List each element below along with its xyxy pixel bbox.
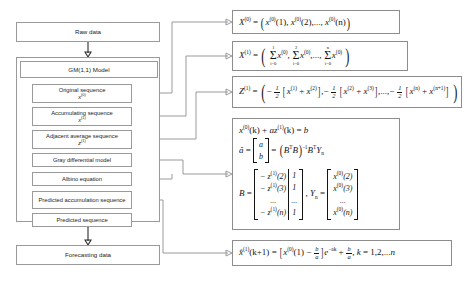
node-accumulating-sequence[interactable]: Accumulating sequence x(1) <box>32 107 132 126</box>
gm-model-title: GM(1,1) Model <box>20 61 158 78</box>
matrix-B: − z(1)(2)− z(1)(3)...− z(1)(n) 11...1 <box>254 169 303 219</box>
formula-original-sequence-expression: X(0) = (x(0)(1), x(0)(2),..., x(0)(n)) <box>239 16 351 28</box>
formula-box-adjacent-average-sequence[interactable]: Z(1) = (− 12 [x(1) + x(2)],− 12 [x(2) + … <box>232 76 462 108</box>
node-predicted-sequence[interactable]: Predicted sequence <box>32 213 132 227</box>
formula-time-response-expression: x̂(1)(k+1) = [x(0)(1) − ba]e−ak + ba, k … <box>239 246 395 260</box>
node-accumulating-sequence-symbol: x(1) <box>78 116 86 123</box>
node-adjacent-average-sequence[interactable]: Adjacent average sequence z(1) <box>32 130 132 149</box>
formula-accumulating-sequence-expression: X(1) = ( 1Σi=0x(0), 2Σi=0x(0),..., nΣi=0… <box>239 46 351 66</box>
node-original-sequence-symbol: x(0) <box>78 93 86 100</box>
formula-gray-differential-equation: x(0)(k) + az(1)(k) = b <box>239 124 358 135</box>
flowchart-canvas: Raw data GM(1,1) Model Original sequence… <box>0 0 464 285</box>
matrix-Yn: x(0)(2)x(0)(3)...x(0)(n) <box>327 169 358 219</box>
formula-parameter-estimate: â = ab = (BTB)-1BTYn <box>239 138 358 163</box>
node-albino-equation-label: Albino equation <box>62 176 102 183</box>
node-gray-differential-model-label: Gray differential model <box>53 157 111 164</box>
node-albino-equation[interactable]: Albino equation <box>32 172 132 186</box>
formula-box-time-response[interactable]: x̂(1)(k+1) = [x(0)(1) − ba]e−ak + ba, k … <box>232 240 452 266</box>
node-original-sequence[interactable]: Original sequence x(0) <box>32 84 132 103</box>
node-adjacent-average-sequence-symbol: z(1) <box>78 139 86 146</box>
node-predicted-accumulation-sequence[interactable]: Predicted accumulation sequence <box>32 191 132 209</box>
formula-box-accumulating-sequence[interactable]: X(1) = ( 1Σi=0x(0), 2Σi=0x(0),..., nΣi=0… <box>232 41 408 71</box>
node-predicted-accumulation-sequence-label: Predicted accumulation sequence <box>38 197 125 204</box>
formula-box-gray-differential-estimation[interactable]: x(0)(k) + az(1)(k) = b â = ab = (BTB)-1B… <box>232 118 400 230</box>
node-forecasting-data[interactable]: Forecasting data <box>16 245 160 265</box>
node-gray-differential-model[interactable]: Gray differential model <box>32 153 132 167</box>
matrix-a-hat: ab <box>253 138 269 163</box>
gm-model-title-label: GM(1,1) Model <box>68 66 109 73</box>
node-raw-data-label: Raw data <box>17 29 159 36</box>
node-predicted-sequence-label: Predicted sequence <box>56 217 107 224</box>
formula-gray-differential-stack: x(0)(k) + az(1)(k) = b â = ab = (BTB)-1B… <box>239 124 358 223</box>
node-raw-data[interactable]: Raw data <box>16 22 160 42</box>
formula-design-matrices: B = − z(1)(2)− z(1)(3)...− z(1)(n) 11...… <box>239 169 358 219</box>
formula-adjacent-average-expression: Z(1) = (− 12 [x(1) + x(2)],− 12 [x(2) + … <box>239 85 459 99</box>
node-forecasting-data-label: Forecasting data <box>17 252 159 259</box>
formula-box-original-sequence[interactable]: X(0) = (x(0)(1), x(0)(2),..., x(0)(n)) <box>232 10 400 34</box>
